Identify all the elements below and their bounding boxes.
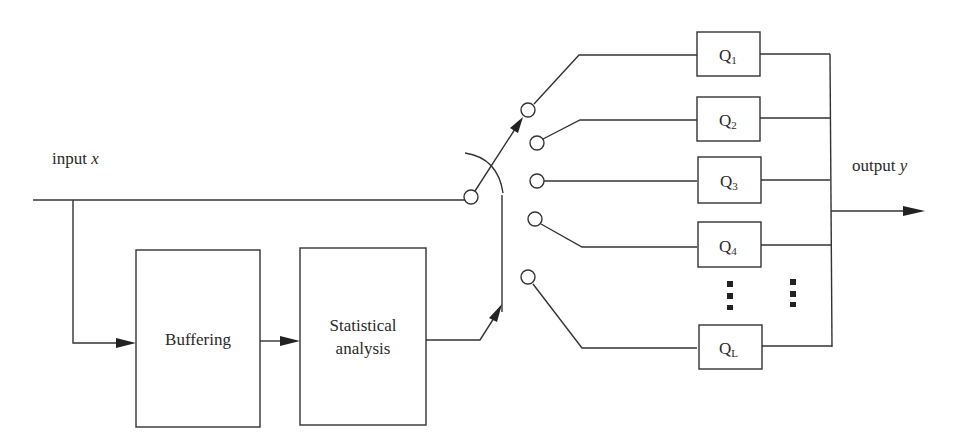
- switch-node-3: [530, 174, 544, 188]
- quantizer-ellipsis-icon: [727, 281, 733, 310]
- quantizer-q2: Q2: [697, 97, 760, 141]
- control-arrow-icon: [489, 304, 502, 322]
- input-label: input x: [52, 149, 99, 168]
- switch-node-1: [521, 103, 535, 117]
- quantizer-q3: Q3: [698, 157, 761, 203]
- arrow-to-buffering-icon: [116, 338, 136, 348]
- quantizer-qL: QL: [699, 325, 762, 369]
- statistical-label-line2: analysis: [336, 339, 391, 358]
- statistical-label-line1: Statistical: [329, 316, 396, 335]
- line-to-q1: [534, 55, 697, 104]
- switch-actuator-arc: [465, 153, 503, 193]
- line-to-q2: [543, 120, 697, 139]
- output-bus: [830, 54, 832, 347]
- switch-node-2: [530, 136, 544, 150]
- output-label: output y: [852, 156, 908, 175]
- output-arrow-icon: [903, 206, 925, 216]
- line-to-q4: [541, 224, 697, 247]
- switch-arrow-icon: [510, 117, 523, 133]
- control-line-lower: [426, 318, 494, 340]
- line-to-qL: [533, 284, 697, 348]
- switch-node-L: [521, 270, 535, 284]
- statistical-analysis-block: [300, 248, 426, 425]
- branch-to-buffering-line: [73, 200, 120, 343]
- switch-input-node: [464, 190, 478, 204]
- bus-ellipsis-icon: [790, 279, 796, 307]
- quantizer-q1: Q1: [697, 32, 760, 76]
- adaptive-quantizer-diagram: input x Buffering Statistical analysis Q…: [0, 0, 955, 448]
- switch-node-4: [528, 212, 542, 226]
- arrow-to-stats-icon: [280, 336, 300, 346]
- buffering-label: Buffering: [165, 330, 231, 349]
- quantizer-q4: Q4: [698, 222, 761, 267]
